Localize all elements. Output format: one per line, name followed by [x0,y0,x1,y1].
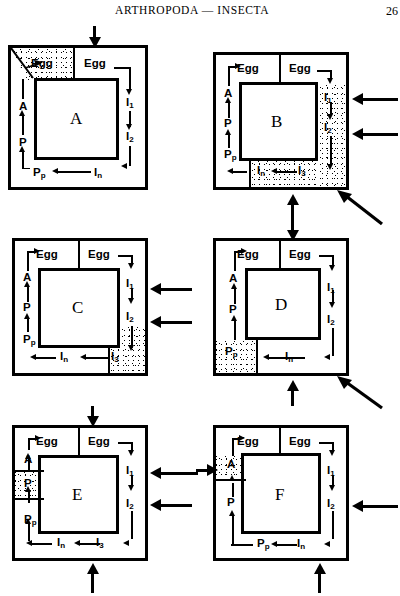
panel-e-pupa-divider-top [15,470,44,472]
panel-b: Egg Egg B I1 I2 I3 In Pp P A [213,52,349,190]
panel-c: Egg Egg C I1 I2 I3 In Pp P A [12,238,148,376]
panel-e-arrowhead-i2 [128,485,134,491]
panel-f-flow-left-up-2 [232,483,234,497]
panel-c-external-arrow-right-upper [150,283,192,297]
panel-c-arrowhead-p [24,313,30,319]
panel-e-flow-left-up-3 [28,458,30,470]
panel-e-external-arrow-bottom [86,563,100,593]
panel-d: Egg Egg D I1 I2 In Pp P A [213,238,349,376]
panel-d-label-egg-right: Egg [289,249,311,261]
panel-a-diagonal-line [11,48,73,80]
panel-c-flow-left-up-1 [27,318,29,332]
panel-e-flow-bottom-left-2 [30,543,52,545]
panel-f-flow-bottom-left [275,544,297,546]
panel-f-external-arrow-bottom [313,563,327,593]
panel-a-arrowhead-corner-br [121,163,127,169]
panel-b-bottom-divider [249,160,251,187]
panel-f-egg-divider [279,428,281,453]
panel-b-flow-left-up-2 [228,102,230,118]
panel-b-arrowhead-i1-top [327,78,333,84]
panel-a-flow-left-up-1 [22,151,24,169]
panel-b-label-pp: Pp [224,149,237,162]
panel-f-arrowhead-i2 [329,485,335,491]
panel-b-flow-left-up-3 [228,66,230,86]
panel-a-flow-pp-corner [22,168,30,170]
panel-d-egg-divider [279,241,281,268]
panel-c-arrowhead-i1-top [128,263,134,269]
panel-f-arrowhead-egg [239,435,245,441]
panel-e-flow-left-up-4 [28,438,30,450]
panel-c-flow-bottom-left-2 [34,357,56,359]
panel-e-arrowhead-corner-br [123,540,129,546]
panel-f-arrowhead-i1-top [329,450,335,456]
panel-b-arrowhead-pp [227,168,233,174]
panel-a-letter: A [70,109,82,129]
panel-c-label-pp: Pp [23,334,36,347]
panel-b-flow-bottom-left [275,171,297,173]
panel-f-label-in: In [297,538,305,551]
panel-f-arrowhead-pp [271,541,277,547]
panel-d-label-pp: Pp [225,346,238,359]
panel-b-label-egg-right: Egg [289,63,311,75]
panel-d-external-arrow-diagonal [337,376,385,410]
panel-d-flow-left-up-1 [234,320,236,340]
panel-c-letter: C [72,298,83,318]
panel-f-label-i2: I2 [327,498,335,511]
panel-e-flow-egg-to-right [118,442,132,444]
panel-a-flow-right-down-1 [129,67,131,91]
panel-e-flow-right-down-3 [131,511,133,539]
panel-b-external-arrow-right-lower [352,128,398,142]
panel-d-letter: D [275,295,287,315]
panel-b-arrowhead-egg [235,63,241,69]
panel-b-egg-divider [279,55,281,82]
panel-d-arrowhead-i1-top [329,265,335,271]
panel-e-external-arrow-right-lower [150,499,192,513]
panel-a-flow-left-up-2 [22,115,24,135]
panel-d-arrowhead-p [231,315,237,321]
panel-c-external-arrow-right-lower [150,316,192,330]
panel-a-label-in: In [94,167,102,180]
page-folio-number: 26 [386,4,400,19]
panel-d-flow-right-down-3 [332,328,334,356]
panel-f-label-p: P [227,497,235,509]
panel-e-flow-left-up-1 [28,523,30,541]
panel-d-label-p: P [229,304,237,316]
panel-f-label-egg-right: Egg [289,436,311,448]
panel-a-label-pp: Pp [33,167,46,180]
running-head: ARTHROPODA — INSECTA 26 [0,4,400,22]
panel-c-arrowhead-i3 [128,345,134,351]
panel-c-arrowhead-i2 [128,298,134,304]
panel-c-flow-egg-to-right [118,255,132,257]
panel-b-flow-bottom-left-2 [231,171,247,173]
panel-b-arrowhead-a [225,97,231,103]
panel-f-external-arrow-left [196,464,218,478]
panel-e-arrowhead-p [25,486,31,492]
panel-c-arrowhead-in [80,354,86,360]
panel-d-external-arrow-top [286,218,300,240]
panel-f-letter: F [275,485,284,505]
panel-f-flow-right-down-3 [332,511,334,539]
panel-d-flow-egg-to-right [319,255,333,257]
panel-b-arrowhead-p [225,129,231,135]
panel-f-label-a: A [227,459,235,471]
panel-d-arrowhead-pp [263,354,269,360]
panel-b-arrowhead-i2 [327,114,333,120]
panel-e-arrowhead-egg [35,435,41,441]
panel-c-label-i3: I3 [111,351,119,364]
panel-b-label-p: P [224,118,232,130]
panel-c-label-in: In [60,351,68,364]
panel-a-egg-divider [73,48,75,78]
panel-b-letter: B [271,112,282,132]
panel-b-arrowhead-i3 [327,164,333,170]
panel-b-flow-egg-to-right [317,70,331,72]
panel-d-flow-left-up-2 [234,288,236,304]
panel-f-label-pp: Pp [257,538,270,551]
panel-f-flow-egg-to-right [319,442,333,444]
panel-d-arrowhead-a [231,283,237,289]
panel-b-label-i2: I2 [324,122,332,135]
panel-a-flow-right-down-3 [129,146,131,166]
panel-b-flow-left-up-1 [228,134,230,148]
panel-e-flow-bottom-left [78,543,100,545]
panel-c-label-i2: I2 [126,311,134,324]
panel-b-arrowhead-in [271,168,277,174]
